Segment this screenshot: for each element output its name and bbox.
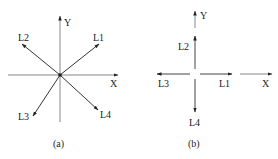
caption-a: (a) bbox=[53, 138, 64, 150]
vector-l1 bbox=[60, 44, 99, 75]
figure-canvas: Y X L1 L2 L3 L4 (a) Y X L1 L2 L3 L4 (b) bbox=[0, 0, 278, 159]
diagram-b: Y X L1 L2 L3 L4 (b) bbox=[157, 10, 272, 150]
vector-l3-label: L3 bbox=[158, 78, 169, 89]
y-axis-label: Y bbox=[200, 10, 207, 21]
caption-b: (b) bbox=[188, 138, 200, 150]
vector-l4-label: L4 bbox=[189, 117, 200, 128]
vector-l1-label: L1 bbox=[219, 78, 230, 89]
vector-l2-label: L2 bbox=[18, 32, 29, 43]
vector-l3 bbox=[33, 75, 60, 116]
vector-l4 bbox=[60, 75, 98, 110]
x-axis-label: X bbox=[110, 78, 118, 89]
vector-l2-label: L2 bbox=[178, 41, 189, 52]
vector-l1-label: L1 bbox=[93, 32, 104, 43]
vector-l2 bbox=[22, 44, 60, 75]
origin-dot bbox=[58, 73, 62, 77]
x-axis-label: X bbox=[262, 78, 270, 89]
vector-l4-label: L4 bbox=[100, 109, 111, 120]
y-axis-label: Y bbox=[64, 17, 71, 28]
vector-l3-label: L3 bbox=[18, 111, 29, 122]
diagram-a: Y X L1 L2 L3 L4 (a) bbox=[8, 16, 118, 150]
